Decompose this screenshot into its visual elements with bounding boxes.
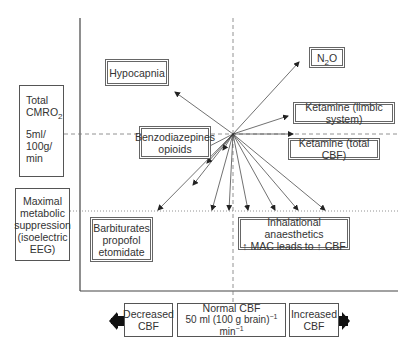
benzodiazepines-box: Benzodiazepines opioids <box>139 126 211 159</box>
maximal-suppression-label: Maximal metabolic suppression (isoelectr… <box>15 188 70 261</box>
arrow-down-3 <box>233 134 248 210</box>
n2o-box: N2O <box>309 47 345 68</box>
cmro2-line4: 100g/ <box>26 140 52 152</box>
cmro2-line5: min <box>26 152 43 164</box>
decreased-arrow-head <box>109 312 117 330</box>
ketamine-total-box: Ketamine (total CBF) <box>288 138 380 160</box>
cmro2-line2: CMRO2 <box>26 106 63 118</box>
total-cmro2-label: Total CMRO2 5ml/ 100g/ min <box>19 85 64 177</box>
hypocapnia-box: Hypocapnia <box>105 59 169 86</box>
decreased-cbf-label: Decreased CBF <box>124 303 173 337</box>
ketamine-limbic-box: Ketamine (limbic system) <box>293 102 395 124</box>
arrow-down-4 <box>233 134 275 210</box>
increased-cbf-label: Increased CBF <box>289 303 339 337</box>
barbiturates-box: Barbiturates propofol etomidate <box>90 217 153 262</box>
cmro2-line3: 5ml/ <box>26 128 46 140</box>
normal-cbf-label: Normal CBF 50 ml (100 g brain)−1 min−1 <box>177 303 286 337</box>
increased-arrow-head <box>342 312 350 330</box>
cmro2-line1: Total <box>26 94 48 106</box>
inhalational-box: Inhalational anaesthetics ↑ MAC leads to… <box>238 217 350 250</box>
